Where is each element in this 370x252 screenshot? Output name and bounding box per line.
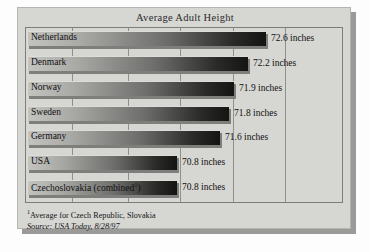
bar-category-label: Czechoslovakia (combined1): [31, 181, 141, 193]
bar-row: Czechoslovakia (combined1)70.8 inches: [26, 177, 342, 202]
bar-category-label: Denmark: [31, 57, 66, 67]
bar-row: USA70.8 inches: [26, 152, 342, 177]
bar-category-label: USA: [31, 156, 50, 166]
bar-value-label: 72.2 inches: [253, 58, 296, 68]
chart-title: Average Adult Height: [18, 12, 352, 23]
bar-row: Denmark72.2 inches: [26, 53, 342, 78]
bar-category-label: Norway: [31, 82, 62, 92]
bar-value-label: 70.8 inches: [182, 157, 225, 167]
footnote-source: Source: USA Today, 8/28/97: [27, 221, 327, 232]
bar-row: Norway71.9 inches: [26, 78, 342, 103]
bar-category-label: Netherlands: [31, 32, 77, 42]
footnotes: 1Average for Czech Republic, Slovakia So…: [27, 207, 327, 232]
bar-rows: Netherlands72.6 inchesDenmark72.2 inches…: [26, 28, 342, 202]
bar-row: Netherlands72.6 inches: [26, 28, 342, 53]
footnote-note: 1Average for Czech Republic, Slovakia: [27, 207, 327, 221]
chart-card: Average Adult Height Netherlands72.6 inc…: [17, 7, 351, 229]
bar-category-label: Sweden: [31, 107, 61, 117]
plot-area: Netherlands72.6 inchesDenmark72.2 inches…: [25, 27, 343, 203]
bar-value-label: 70.8 inches: [182, 182, 225, 192]
bar-row: Sweden71.8 inches: [26, 103, 342, 128]
bar-value-label: 72.6 inches: [271, 33, 314, 43]
bar-value-label: 71.6 inches: [225, 132, 268, 142]
bar-value-label: 71.9 inches: [239, 83, 282, 93]
bar-value-label: 71.8 inches: [234, 108, 277, 118]
bar-category-label: Germany: [31, 131, 66, 141]
chart-figure: Average Adult Height Netherlands72.6 inc…: [0, 0, 370, 252]
bar-row: Germany71.6 inches: [26, 127, 342, 152]
